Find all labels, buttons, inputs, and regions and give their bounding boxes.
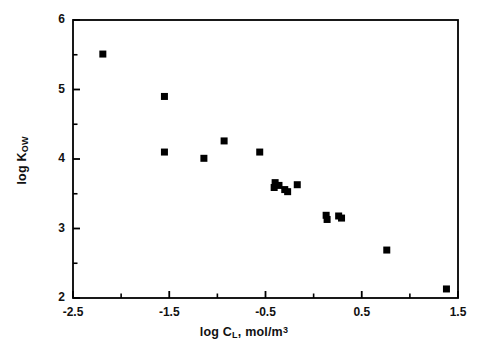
data-point-marker <box>200 155 207 162</box>
y-axis-title-wrapper: log KOW <box>0 0 44 320</box>
scatter-chart-figure: log KOW log CL, mol/m3 23456-2.5-1.5-0.5… <box>0 0 488 354</box>
y-axis-title-prefix: log K <box>15 152 29 184</box>
y-axis-tick-label: 4 <box>49 151 65 165</box>
x-axis-tick-label: -2.5 <box>53 305 93 319</box>
x-axis-title-mid: , mol/m <box>238 325 283 339</box>
y-axis-title: log KOW <box>15 136 30 184</box>
data-point-marker <box>284 188 291 195</box>
y-axis-tick-label: 3 <box>49 221 65 235</box>
data-point-marker <box>99 51 106 58</box>
data-point-marker <box>221 137 228 144</box>
data-point-marker <box>294 181 301 188</box>
x-axis-title-superscript: 3 <box>283 325 288 335</box>
y-axis-title-subscript: OW <box>19 136 29 152</box>
x-axis-title: log CL, mol/m3 <box>0 325 488 340</box>
data-point-marker <box>256 149 263 156</box>
y-axis-tick-label: 2 <box>49 290 65 304</box>
plot-canvas <box>0 0 488 354</box>
x-axis-tick-label: -0.5 <box>246 305 286 319</box>
data-point-marker <box>324 216 331 223</box>
data-point-marker <box>338 215 345 222</box>
data-point-marker <box>443 285 450 292</box>
data-point-marker <box>161 93 168 100</box>
y-axis-tick-label: 5 <box>49 82 65 96</box>
x-axis-tick-label: -1.5 <box>149 305 189 319</box>
x-axis-tick-label: 0.5 <box>342 305 382 319</box>
data-point-marker <box>161 149 168 156</box>
data-series-compounds <box>99 51 450 293</box>
data-point-marker <box>383 247 390 254</box>
plot-frame <box>73 20 458 298</box>
y-axis-tick-label: 6 <box>49 12 65 26</box>
x-axis-title-prefix: log C <box>200 325 232 339</box>
x-axis-tick-label: 1.5 <box>438 305 478 319</box>
